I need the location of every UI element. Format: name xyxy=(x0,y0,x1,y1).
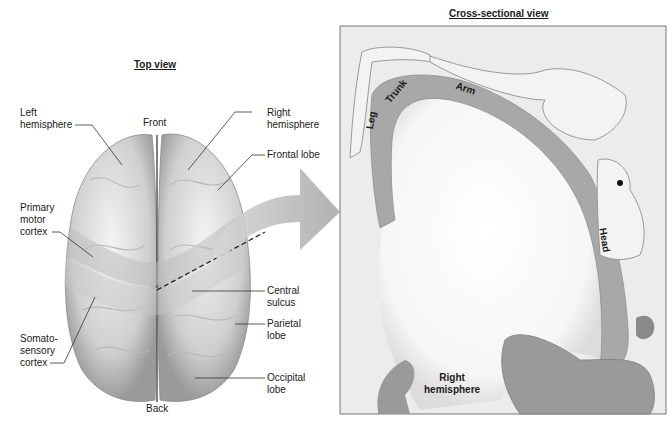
label-somatosensory-cortex: Somato- sensory cortex xyxy=(20,333,58,369)
label-occipital-lobe: Occipital lobe xyxy=(267,372,305,396)
label-right-hemisphere-cross: Right hemisphere xyxy=(424,372,480,396)
homunculus-eye xyxy=(617,180,623,186)
label-frontal-lobe: Frontal lobe xyxy=(267,149,320,161)
cross-section-title: Cross-sectional view xyxy=(449,8,548,19)
label-central-sulcus: Central sulcus xyxy=(267,285,299,309)
label-front: Front xyxy=(143,117,166,129)
label-parietal-lobe: Parietal lobe xyxy=(267,318,301,342)
label-primary-motor-cortex: Primary motor cortex xyxy=(20,202,54,238)
diagram-graphics xyxy=(0,0,672,428)
label-right-hemisphere: Right hemisphere xyxy=(267,107,319,131)
brain-top-view xyxy=(64,134,265,402)
label-left-hemisphere: Left hemisphere xyxy=(20,107,72,131)
top-view-title: Top view xyxy=(134,59,176,70)
label-back: Back xyxy=(146,403,168,415)
